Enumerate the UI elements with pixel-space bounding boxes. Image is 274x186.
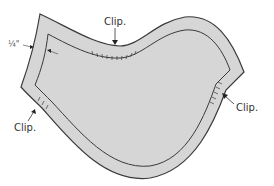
- label-clip-top: Clip.: [104, 16, 126, 27]
- arrow-clip-right: [222, 93, 234, 104]
- arrow-clip-top: [112, 28, 118, 45]
- arrow-clip-left: [28, 109, 36, 121]
- label-seam-allowance: ¼": [8, 40, 19, 49]
- label-clip-right: Clip.: [236, 102, 258, 113]
- label-clip-left: Clip.: [14, 122, 36, 133]
- sewing-diagram: Clip. Clip. Clip. ¼": [0, 0, 274, 186]
